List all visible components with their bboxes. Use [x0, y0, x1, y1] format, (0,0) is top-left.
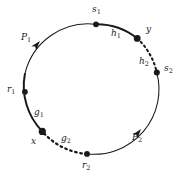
arc-P1-thin-solid — [25, 24, 96, 74]
diagram-canvas — [0, 0, 182, 180]
arc-P2-thin-solid — [87, 73, 159, 155]
point-dot-x — [39, 128, 46, 135]
point-dot-y — [134, 35, 141, 42]
label-s1: s1 — [92, 5, 101, 14]
point-dot-r2 — [84, 151, 90, 157]
label-g2: g2 — [61, 134, 71, 143]
label-h2: h2 — [139, 57, 149, 66]
label-P1: P1 — [21, 33, 31, 42]
label-P2: P2 — [132, 133, 142, 142]
point-dot-s2 — [154, 70, 160, 76]
label-r2: r2 — [82, 161, 90, 170]
arc-g1-thick-solid — [24, 74, 43, 131]
label-y: y — [146, 25, 151, 34]
label-s2: s2 — [164, 64, 173, 73]
label-x: x — [31, 137, 36, 146]
label-r1: r1 — [7, 85, 15, 94]
circle-diagram-figure: s1 y s2 r2 x r1 P1 h1 h2 g1 g2 P2 — [0, 0, 182, 180]
point-dot-r1 — [22, 89, 28, 95]
point-dot-s1 — [93, 21, 99, 27]
label-h1: h1 — [111, 29, 121, 38]
label-g1: g1 — [34, 108, 44, 117]
